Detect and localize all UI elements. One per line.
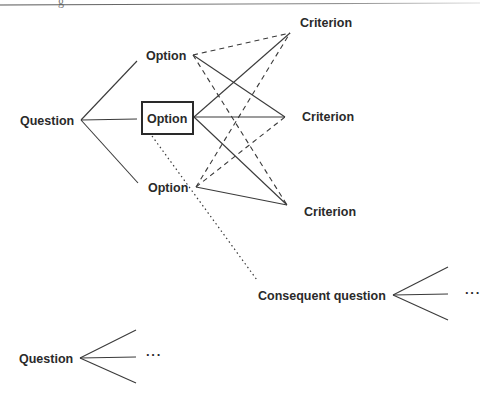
consequent-question-label: Consequent question xyxy=(258,289,386,303)
decision-tree-diagram: g xyxy=(0,0,498,404)
criterion-bottom-label: Criterion xyxy=(304,205,356,219)
question-main-label: Question xyxy=(20,114,74,128)
option-selected-label: Option xyxy=(147,112,187,126)
question-second-label: Question xyxy=(19,352,73,366)
ellipsis-consequent: ··· xyxy=(465,288,481,298)
connector-lines xyxy=(0,0,498,404)
option-bottom-label: Option xyxy=(148,181,188,195)
criterion-top-label: Criterion xyxy=(300,16,352,30)
header-rule xyxy=(0,3,480,5)
option-top-label: Option xyxy=(146,49,186,63)
criterion-mid-label: Criterion xyxy=(302,110,354,124)
ellipsis-second: ··· xyxy=(146,350,162,360)
consequence-link xyxy=(152,136,257,280)
